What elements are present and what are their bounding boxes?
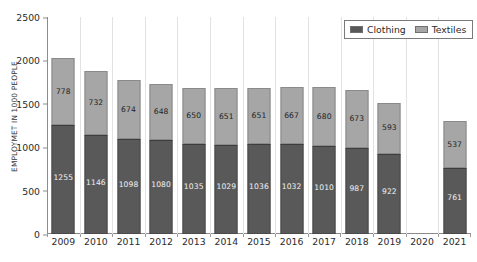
bar-column[interactable]: 6511029 (210, 17, 243, 234)
legend-label-clothing: Clothing (367, 24, 406, 35)
stacked-bar[interactable]: 7781255 (52, 58, 75, 234)
bar-segment-textiles[interactable]: 778 (52, 58, 75, 126)
stacked-bar[interactable]: 6501035 (182, 88, 205, 234)
x-tick-label: 2014 (210, 236, 243, 247)
bar-value-label-clothing: 922 (382, 188, 397, 196)
bar-value-label-textiles: 732 (89, 99, 104, 107)
bar-segment-textiles[interactable]: 732 (84, 71, 107, 135)
x-tick-label: 2010 (80, 236, 113, 247)
bar-column[interactable]: 6801010 (308, 17, 341, 234)
bar-value-label-textiles: 651 (219, 113, 234, 121)
stacked-bar[interactable]: 7321146 (84, 71, 107, 234)
bar-value-label-textiles: 650 (186, 112, 201, 120)
legend-item-textiles[interactable]: Textiles (415, 24, 467, 35)
bar-segment-clothing[interactable]: 1036 (247, 144, 270, 234)
bar-column[interactable]: 6501035 (177, 17, 210, 234)
y-tick-label: 2500 (16, 12, 47, 23)
x-tick-label: 2012 (145, 236, 178, 247)
bar-value-label-clothing: 1255 (53, 174, 73, 182)
bar-value-label-clothing: 1146 (86, 179, 106, 187)
stacked-bar[interactable]: 537761 (443, 121, 466, 234)
bar-segment-clothing[interactable]: 987 (345, 148, 368, 234)
bar-value-label-textiles: 651 (252, 112, 267, 120)
bar-segment-textiles[interactable]: 537 (443, 121, 466, 168)
bar-column[interactable]: 7781255 (47, 17, 80, 234)
x-tick-label: 2020 (406, 236, 439, 247)
bar-segment-textiles[interactable]: 667 (280, 87, 303, 145)
bar-value-label-clothing: 1098 (119, 181, 139, 189)
y-tick-label: 0 (34, 229, 47, 240)
bar-segment-textiles[interactable]: 673 (345, 90, 368, 148)
x-axis-labels: 2009201020112012201320142015201620172018… (47, 236, 471, 247)
stacked-bar[interactable]: 6481080 (150, 84, 173, 234)
bar-segment-textiles[interactable]: 680 (313, 87, 336, 146)
y-tick-label: 500 (22, 185, 47, 196)
bar-value-label-clothing: 1035 (184, 183, 204, 191)
bar-segment-clothing[interactable]: 1080 (150, 140, 173, 234)
x-tick-label: 2019 (373, 236, 406, 247)
bar-segment-clothing[interactable]: 1035 (182, 144, 205, 234)
bar-column[interactable]: 7321146 (80, 17, 113, 234)
bar-segment-textiles[interactable]: 651 (247, 88, 270, 145)
x-tick-label: 2013 (177, 236, 210, 247)
bar-column[interactable]: 6481080 (145, 17, 178, 234)
stacked-bar[interactable]: 6511029 (215, 88, 238, 234)
bar-column[interactable]: 537761 (438, 17, 471, 234)
bar-segment-clothing[interactable]: 1010 (313, 146, 336, 234)
bar-value-label-clothing: 987 (349, 185, 364, 193)
stacked-bar[interactable]: 6741098 (117, 80, 140, 234)
x-tick-label: 2018 (340, 236, 373, 247)
bar-value-label-textiles: 593 (382, 124, 397, 132)
bar-value-label-textiles: 673 (349, 115, 364, 123)
bar-value-label-clothing: 1010 (314, 184, 334, 192)
bar-segment-clothing[interactable]: 922 (378, 154, 401, 234)
bar-segment-clothing[interactable]: 1029 (215, 145, 238, 234)
bar-value-label-textiles: 778 (56, 88, 71, 96)
bar-column[interactable]: 593922 (373, 17, 406, 234)
bar-column[interactable]: 673987 (340, 17, 373, 234)
bar-segment-clothing[interactable]: 1146 (84, 135, 107, 234)
bar-value-label-clothing: 1080 (151, 181, 171, 189)
plot-area: 25002000150010005000 7781255732114667410… (47, 17, 471, 234)
legend-swatch-clothing-icon (350, 26, 363, 33)
x-tick-label: 2011 (112, 236, 145, 247)
bar-column[interactable]: 6511036 (243, 17, 276, 234)
legend-swatch-textiles-icon (415, 26, 428, 33)
y-axis-title: EMPLOYMET IN 1000 PEOPLE (10, 17, 19, 217)
stacked-bar[interactable]: 6671032 (280, 87, 303, 234)
bar-segment-textiles[interactable]: 650 (182, 88, 205, 144)
y-tick-label: 2000 (16, 55, 47, 66)
x-tick-label: 2017 (308, 236, 341, 247)
bar-column[interactable]: 6671032 (275, 17, 308, 234)
bar-column[interactable]: 6741098 (112, 17, 145, 234)
bar-segment-clothing[interactable]: 1032 (280, 144, 303, 234)
y-tick-label: 1000 (16, 142, 47, 153)
bar-value-label-textiles: 537 (447, 141, 462, 149)
bar-segment-textiles[interactable]: 648 (150, 84, 173, 140)
stacked-bar[interactable]: 6801010 (313, 87, 336, 234)
y-tick-label: 1500 (16, 98, 47, 109)
bar-value-label-textiles: 674 (121, 106, 136, 114)
legend-item-clothing[interactable]: Clothing (350, 24, 406, 35)
bar-value-label-clothing: 761 (447, 194, 462, 202)
bar-column[interactable] (406, 17, 439, 234)
bar-value-label-textiles: 680 (317, 113, 332, 121)
x-tick-label: 2015 (243, 236, 276, 247)
x-tick-label: 2021 (438, 236, 471, 247)
bar-columns: 7781255732114667410986481080650103565110… (47, 17, 471, 234)
bar-segment-clothing[interactable]: 1098 (117, 139, 140, 234)
bar-segment-textiles[interactable]: 651 (215, 88, 238, 145)
bar-value-label-clothing: 1032 (282, 183, 302, 191)
stacked-bar-chart: EMPLOYMET IN 1000 PEOPLE 250020001500100… (0, 0, 477, 262)
stacked-bar[interactable]: 6511036 (247, 88, 270, 234)
chart-legend: Clothing Textiles (344, 20, 473, 39)
bar-segment-clothing[interactable]: 1255 (52, 125, 75, 234)
bar-segment-textiles[interactable]: 674 (117, 80, 140, 139)
legend-label-textiles: Textiles (432, 24, 467, 35)
bar-value-label-textiles: 667 (284, 112, 299, 120)
bar-value-label-textiles: 648 (154, 108, 169, 116)
bar-segment-clothing[interactable]: 761 (443, 168, 466, 234)
stacked-bar[interactable]: 593922 (378, 103, 401, 234)
bar-segment-textiles[interactable]: 593 (378, 103, 401, 154)
stacked-bar[interactable]: 673987 (345, 90, 368, 234)
